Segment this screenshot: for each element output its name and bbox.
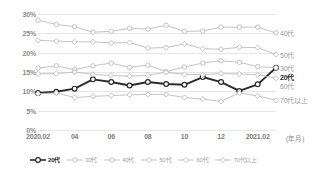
legend-marker-icon — [67, 156, 83, 164]
data-point — [164, 92, 169, 97]
data-point — [201, 29, 205, 33]
data-point — [90, 39, 95, 44]
series-60代 — [35, 69, 278, 80]
data-point — [145, 72, 150, 77]
data-point — [127, 26, 131, 30]
data-point — [109, 73, 114, 78]
x-tick-06: 06 — [108, 133, 115, 140]
y-tick-15%: 15% — [10, 69, 36, 76]
data-point — [182, 82, 187, 87]
data-point — [54, 38, 59, 43]
data-point — [109, 40, 114, 45]
line-chart: 0%5%10%15%20%25%30% 2020.020406081012202… — [0, 0, 320, 178]
data-point — [218, 47, 223, 52]
legend-item-60代[interactable]: 60代 — [178, 155, 208, 164]
x-tick-2021.02: 2021.02 — [246, 133, 270, 140]
data-point — [127, 92, 132, 97]
data-point — [274, 66, 278, 70]
legend-marker-icon — [30, 156, 46, 164]
data-point — [255, 64, 259, 68]
data-point — [72, 95, 77, 100]
data-point — [273, 76, 278, 81]
series-end-label-70代以上: 70代以上 — [280, 95, 308, 105]
data-point — [35, 38, 40, 43]
gridline-0% — [38, 130, 276, 131]
data-point — [109, 93, 114, 98]
data-point — [109, 61, 113, 65]
plot-area — [38, 14, 276, 130]
data-point — [164, 23, 168, 27]
data-point — [255, 25, 259, 29]
data-point — [91, 64, 95, 68]
legend-label: 30代 — [85, 155, 97, 164]
data-point — [237, 60, 241, 64]
data-point — [164, 45, 169, 50]
data-point — [218, 71, 223, 76]
legend-label: 40代 — [122, 155, 134, 164]
data-point — [72, 39, 77, 44]
data-point — [145, 80, 150, 85]
data-point — [219, 25, 223, 29]
legend-label: 70代以上 — [233, 155, 257, 164]
series-end-label-40代: 40代 — [280, 28, 294, 38]
data-point — [54, 22, 58, 26]
x-tick-08: 08 — [144, 133, 151, 140]
series-50代 — [35, 38, 278, 58]
data-point — [90, 72, 95, 77]
data-point — [146, 63, 150, 67]
data-point — [54, 64, 58, 68]
legend-item-50代[interactable]: 50代 — [141, 155, 171, 164]
data-point — [109, 29, 113, 33]
data-point — [145, 92, 150, 97]
series-end-label-50代: 50代 — [280, 50, 294, 60]
data-point — [218, 99, 223, 104]
data-point — [182, 95, 187, 100]
y-tick-5%: 5% — [10, 107, 36, 114]
y-tick-30%: 30% — [10, 11, 36, 18]
data-point — [90, 94, 95, 99]
legend-marker-icon — [104, 156, 120, 164]
data-point — [182, 41, 187, 46]
data-point — [219, 59, 223, 63]
x-tick-04: 04 — [71, 133, 78, 140]
legend-item-20代[interactable]: 20代 — [30, 155, 60, 164]
legend-marker-icon — [178, 156, 194, 164]
data-point — [273, 98, 278, 103]
data-point — [109, 80, 114, 85]
legend-item-40代[interactable]: 40代 — [104, 155, 134, 164]
data-point — [237, 25, 241, 29]
data-point — [127, 74, 132, 79]
legend-item-70代以上[interactable]: 70代以上 — [215, 155, 257, 164]
data-point — [255, 93, 260, 98]
data-point — [219, 80, 224, 85]
x-tick-10: 10 — [181, 133, 188, 140]
data-point — [35, 71, 40, 76]
legend-label: 50代 — [159, 155, 171, 164]
y-tick-20%: 20% — [10, 49, 36, 56]
x-axis-unit-label: (年月) — [286, 133, 304, 143]
data-point — [164, 82, 169, 87]
legend-item-30代[interactable]: 30代 — [67, 155, 97, 164]
chart-legend: 20代30代40代50代60代70代以上 — [30, 155, 310, 164]
data-point — [273, 52, 278, 57]
data-point — [182, 72, 187, 77]
data-point — [72, 25, 76, 29]
series-70代以上 — [35, 90, 278, 104]
series-layer — [38, 14, 276, 130]
data-point — [127, 65, 131, 69]
series-20代 — [36, 65, 279, 95]
data-point — [36, 66, 40, 70]
legend-label: 20代 — [48, 155, 60, 164]
legend-label: 60代 — [196, 155, 208, 164]
series-end-label-60代: 60代 — [280, 81, 294, 91]
x-tick-12: 12 — [217, 133, 224, 140]
data-point — [36, 18, 40, 22]
legend-marker-icon — [141, 156, 157, 164]
data-point — [127, 40, 132, 45]
data-point — [91, 30, 95, 34]
data-point — [255, 82, 260, 87]
data-point — [182, 65, 186, 69]
data-point — [255, 45, 260, 50]
legend-marker-icon — [215, 156, 231, 164]
data-point — [237, 71, 242, 76]
